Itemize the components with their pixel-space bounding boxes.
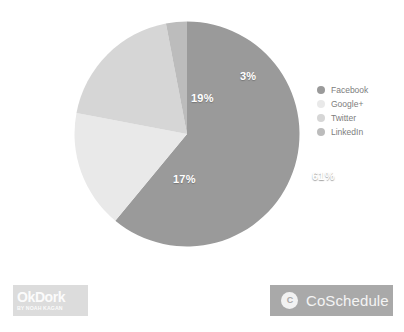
coschedule-wordmark: CoSchedule — [306, 293, 389, 308]
legend-label-twitter: Twitter — [331, 114, 356, 123]
legend-item-facebook[interactable]: Facebook — [317, 83, 401, 97]
okdork-logo: OkDork BY NOAH KAGAN — [13, 285, 88, 316]
legend-swatch-google-plus-icon — [317, 100, 325, 108]
coschedule-badge-icon: C — [281, 292, 298, 309]
pie-chart-svg — [74, 21, 300, 247]
okdork-tagline: BY NOAH KAGAN — [17, 306, 63, 311]
legend-item-google-plus[interactable]: Google+ — [317, 97, 401, 111]
coschedule-badge-glyph: C — [287, 296, 293, 305]
legend-swatch-facebook-icon — [317, 86, 325, 94]
legend-swatch-linkedin-icon — [317, 128, 325, 136]
okdork-wordmark: OkDork — [17, 290, 65, 304]
legend-item-linkedin[interactable]: LinkedIn — [317, 125, 401, 139]
legend-label-facebook: Facebook — [331, 86, 368, 95]
legend-swatch-twitter-icon — [317, 114, 325, 122]
chart-legend: Facebook Google+ Twitter LinkedIn — [317, 83, 401, 139]
legend-item-twitter[interactable]: Twitter — [317, 111, 401, 125]
pie-chart-figure: 61% 17% 19% 3% Facebook Google+ Twitter … — [0, 0, 404, 268]
legend-label-linkedin: LinkedIn — [331, 128, 363, 137]
legend-label-google-plus: Google+ — [331, 100, 363, 109]
pie-slice-group — [74, 22, 299, 247]
slice-label-facebook: 61% — [312, 170, 335, 182]
pie-chart: 61% 17% 19% 3% — [74, 21, 300, 247]
coschedule-logo: C CoSchedule — [270, 285, 393, 316]
